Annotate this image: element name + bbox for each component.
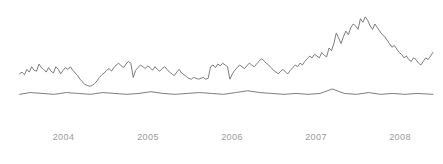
series-line-lower: [20, 89, 433, 94]
sparkline-chart: 20042005200620072008: [0, 0, 443, 164]
x-tick-label-2008: 2008: [389, 132, 411, 142]
series-line-upper: [20, 17, 433, 86]
x-tick-label-2005: 2005: [137, 132, 159, 142]
x-tick-label-2004: 2004: [53, 132, 75, 142]
x-tick-label-2006: 2006: [221, 132, 243, 142]
x-axis-tick-labels: 20042005200620072008: [0, 132, 443, 152]
x-tick-label-2007: 2007: [305, 132, 327, 142]
